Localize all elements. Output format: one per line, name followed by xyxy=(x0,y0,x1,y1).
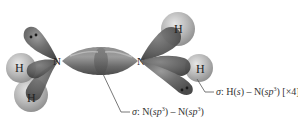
hydrazine-orbital-diagram: H H N N H H σ: H(s) – N(sp3 xyxy=(0,0,298,127)
atom-label-h4: H xyxy=(196,62,205,76)
nn-sigma-bond-orbital xyxy=(62,47,138,75)
atom-label-n1: N xyxy=(53,55,61,67)
label-nn-sigma-bond: σ: N(sp3) – N(sp3) xyxy=(132,106,204,118)
atom-label-h2: H xyxy=(27,91,36,105)
lone-pair-dot xyxy=(35,34,38,37)
atom-label-h1: H xyxy=(15,61,24,75)
atom-label-h3: H xyxy=(174,22,183,36)
leader-line-nn-bond xyxy=(103,74,130,112)
lone-pair-dot xyxy=(186,87,189,90)
lone-pair-dot xyxy=(30,36,33,39)
lone-pair-dot xyxy=(181,89,184,92)
left-nh2-group: H H xyxy=(6,27,58,112)
right-nh2-group: H H xyxy=(140,12,213,95)
label-nh-sigma-bond: σ: H(s) – N(sp3) [×4] xyxy=(216,86,298,98)
